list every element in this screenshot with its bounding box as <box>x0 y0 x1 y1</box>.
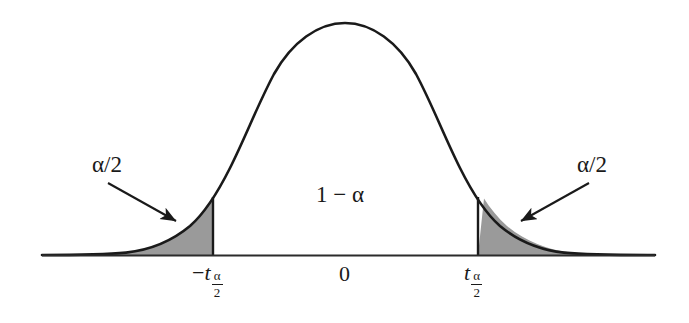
density-curve <box>42 23 655 255</box>
fraction-numerator: α <box>471 269 482 284</box>
positive-critical-value-label: t α 2 <box>464 262 482 299</box>
fraction-denominator: 2 <box>471 285 482 300</box>
t-distribution-figure: α/2 α/2 1 − α 0 − t α 2 t α 2 <box>0 0 689 323</box>
right-tail-probability-label: α/2 <box>577 153 607 176</box>
right-annotation-arrow <box>521 183 589 221</box>
zero-tick-label: 0 <box>339 263 350 285</box>
alpha-over-two-fraction: α 2 <box>471 269 482 299</box>
t-statistic-symbol: t <box>204 262 210 284</box>
alpha-over-two-fraction: α 2 <box>212 269 223 299</box>
confidence-level-label: 1 − α <box>316 183 364 206</box>
right-tail-shaded-region <box>478 199 655 256</box>
t-statistic-symbol: t <box>464 262 470 284</box>
left-annotation-arrow <box>108 183 176 221</box>
fraction-denominator: 2 <box>212 285 223 300</box>
left-tail-probability-label: α/2 <box>92 153 122 176</box>
fraction-numerator: α <box>212 269 223 284</box>
negative-critical-value-label: − t α 2 <box>192 262 223 299</box>
minus-sign: − <box>192 262 204 284</box>
